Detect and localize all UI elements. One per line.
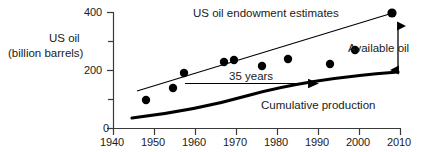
x-tick-label-2010: 2010 (387, 136, 411, 148)
x-tick-label-1970: 1970 (223, 136, 247, 148)
data-point (387, 8, 396, 17)
endowment-series-label: US oil endowment estimates (193, 7, 339, 19)
data-point (230, 56, 238, 64)
y-axis-title-line2: (billion barrels) (8, 47, 83, 59)
data-point (169, 84, 177, 92)
x-axis-ticks (114, 129, 401, 136)
data-point (326, 60, 334, 68)
y-tick-label-400: 400 (84, 6, 102, 18)
y-axis-ticks (107, 13, 114, 129)
chart-canvas (0, 0, 440, 152)
data-point (180, 69, 188, 77)
x-tick-label-1960: 1960 (182, 136, 206, 148)
thirty-five-years-label: 35 years (229, 70, 273, 82)
x-tick-label-1950: 1950 (141, 136, 165, 148)
data-point (220, 58, 228, 66)
y-axis-title-line1: US oil (49, 32, 80, 44)
x-tick-label-1980: 1980 (264, 136, 288, 148)
x-tick-label-1940: 1940 (100, 136, 124, 148)
available-oil-label: Available oil (348, 42, 409, 54)
y-tick-label-0: 0 (103, 122, 109, 134)
oil-endowment-chart: US oil (billion barrels) 400 200 0 1940 … (0, 0, 440, 152)
x-tick-label-1990: 1990 (305, 136, 329, 148)
data-point (258, 62, 266, 70)
data-point (284, 55, 292, 63)
x-tick-label-2000: 2000 (346, 136, 370, 148)
cumulative-production-label: Cumulative production (261, 99, 375, 111)
data-point (142, 96, 150, 104)
y-tick-label-200: 200 (84, 64, 102, 76)
